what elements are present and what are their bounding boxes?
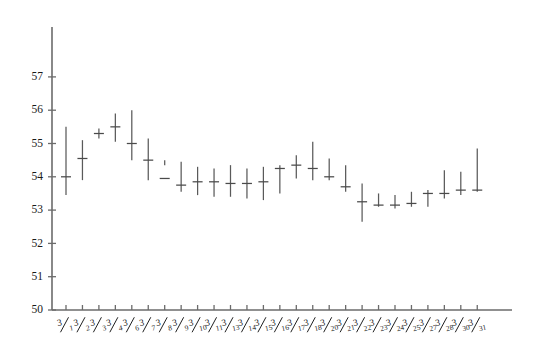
- y-tick-label: 55: [32, 137, 44, 149]
- svg-text:3: 3: [336, 317, 343, 328]
- svg-text:3: 3: [451, 317, 458, 328]
- ohlc-bar: [127, 110, 137, 160]
- ohlc-bar: [110, 114, 120, 142]
- svg-text:3: 3: [155, 317, 162, 328]
- ohlc-bar: [456, 172, 466, 195]
- ohlc-bar: [193, 167, 203, 195]
- x-axis: [52, 305, 512, 310]
- ohlc-bar: [308, 142, 318, 180]
- svg-text:3: 3: [254, 317, 261, 328]
- ohlc-bar: [143, 139, 153, 181]
- range-bar-chart: 5051525354555657 31323334363738393103113…: [0, 0, 540, 362]
- ohlc-bar: [94, 129, 104, 139]
- svg-text:3: 3: [89, 317, 96, 328]
- svg-text:3: 3: [105, 317, 112, 328]
- ohlc-bar: [226, 165, 236, 197]
- svg-text:3: 3: [303, 317, 310, 328]
- svg-text:3: 3: [221, 317, 228, 328]
- ohlc-bar: [209, 168, 219, 196]
- data-bars: [61, 110, 482, 222]
- ohlc-bar: [439, 170, 449, 198]
- svg-text:3: 3: [171, 317, 178, 328]
- ohlc-bar: [291, 155, 301, 178]
- y-axis: 5051525354555657: [32, 27, 57, 315]
- y-tick-label: 57: [32, 70, 44, 82]
- svg-text:3: 3: [286, 317, 293, 328]
- svg-text:3: 3: [138, 317, 145, 328]
- x-axis-labels: 3132333436373839310311313314315316317318…: [56, 315, 487, 335]
- svg-text:3: 3: [204, 317, 211, 328]
- y-tick-label: 53: [32, 203, 44, 215]
- ohlc-bar: [390, 195, 400, 208]
- svg-text:3: 3: [237, 317, 244, 328]
- svg-text:3: 3: [56, 317, 63, 328]
- svg-text:31: 31: [478, 323, 487, 333]
- y-tick-label: 54: [32, 170, 44, 182]
- ohlc-bar: [423, 190, 433, 207]
- ohlc-bar: [324, 158, 334, 180]
- svg-text:3: 3: [369, 317, 376, 328]
- svg-text:3: 3: [188, 317, 195, 328]
- ohlc-bar: [472, 148, 482, 191]
- chart-container: 5051525354555657 31323334363738393103113…: [0, 0, 540, 362]
- ohlc-bar: [357, 183, 367, 221]
- svg-text:3: 3: [418, 317, 425, 328]
- ohlc-bar: [61, 127, 71, 195]
- ohlc-bar: [77, 140, 87, 180]
- ohlc-bar: [160, 160, 170, 178]
- ohlc-bar: [275, 165, 285, 193]
- svg-text:3: 3: [73, 317, 80, 328]
- svg-text:3: 3: [402, 317, 409, 328]
- ohlc-bar: [258, 167, 268, 200]
- svg-text:3: 3: [434, 317, 441, 328]
- svg-text:3: 3: [352, 317, 359, 328]
- y-tick-label: 50: [32, 303, 44, 315]
- ohlc-bar: [374, 193, 384, 206]
- y-tick-label: 56: [32, 103, 44, 115]
- ohlc-bar: [176, 162, 186, 192]
- ohlc-bar: [341, 165, 351, 192]
- svg-text:3: 3: [122, 317, 129, 328]
- ohlc-bar: [242, 168, 252, 198]
- svg-text:3: 3: [319, 317, 326, 328]
- x-tick-label: 331: [467, 315, 487, 335]
- svg-text:3: 3: [467, 317, 474, 328]
- svg-text:3: 3: [385, 317, 392, 328]
- y-tick-label: 51: [32, 270, 44, 282]
- y-tick-label: 52: [32, 237, 44, 249]
- ohlc-bar: [406, 192, 416, 207]
- svg-text:3: 3: [270, 317, 277, 328]
